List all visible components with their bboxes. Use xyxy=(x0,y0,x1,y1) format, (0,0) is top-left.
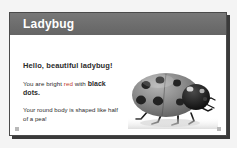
greeting-text: Hello, beautiful ladybug! xyxy=(23,61,121,71)
red-sentence: You are bright red with black dots. xyxy=(23,80,121,97)
red-word: red xyxy=(64,80,73,87)
corner-mark-right xyxy=(217,127,221,131)
ladybug-highlight xyxy=(142,74,174,88)
page-title: Ladybug xyxy=(23,17,74,31)
ladybug-eye xyxy=(203,97,207,101)
shape-sentence: Your round body is shaped like half of a… xyxy=(23,106,121,123)
slide-frame: Ladybug Hello, beautiful ladybug! You ar… xyxy=(0,0,237,148)
black-word: black xyxy=(88,80,106,87)
text-column: Hello, beautiful ladybug! You are bright… xyxy=(23,61,121,130)
slide-body: Hello, beautiful ladybug! You are bright… xyxy=(10,35,226,135)
red-sentence-tail: dots. xyxy=(23,89,40,96)
ladybug-head xyxy=(182,84,210,110)
ladybug-pronotum-spot-right xyxy=(199,89,204,93)
slide-card[interactable]: Ladybug Hello, beautiful ladybug! You ar… xyxy=(9,12,227,136)
red-sentence-lead: You are bright xyxy=(23,80,64,87)
ladybug-photo xyxy=(128,67,218,129)
corner-mark-left xyxy=(15,127,19,131)
red-sentence-middle: with xyxy=(73,80,88,87)
slide-title-bar: Ladybug xyxy=(10,13,226,35)
ladybug-pronotum-spot-left xyxy=(187,86,194,91)
ladybug-antenna xyxy=(206,104,214,108)
